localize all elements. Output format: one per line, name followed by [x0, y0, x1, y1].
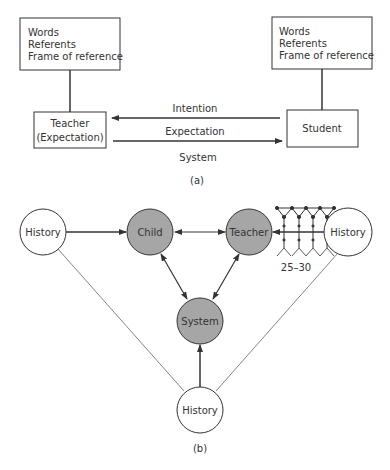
- node-teacher-label: Teacher: [229, 227, 270, 238]
- student-frame-line-3: Frame of reference: [279, 50, 374, 61]
- intention-label: Intention: [173, 103, 218, 114]
- node-child: Child: [127, 209, 173, 255]
- teacher-box-sublabel: (Expectation): [36, 132, 103, 143]
- node-teacher: Teacher: [226, 209, 272, 255]
- node-system-label: System: [181, 316, 218, 327]
- student-frame-box: Words Referents Frame of reference: [272, 17, 374, 69]
- teacher-box-label: Teacher: [50, 118, 91, 129]
- node-history-left-label: History: [25, 227, 61, 238]
- teacher-frame-line-3: Frame of reference: [28, 51, 123, 62]
- class-size-label: 25–30: [281, 262, 311, 273]
- student-box-label: Student: [302, 123, 341, 134]
- node-child-label: Child: [137, 227, 162, 238]
- teacher-frame-line-2: Referents: [28, 39, 76, 50]
- node-history-left: History: [20, 209, 66, 255]
- diagram-b: 25–30 History Child Teacher History Syst…: [20, 206, 372, 454]
- child-system-arrow: [161, 254, 187, 299]
- caption-a: (a): [190, 175, 204, 186]
- student-frame-line-2: Referents: [279, 38, 327, 49]
- student-frame-line-1: Words: [279, 26, 310, 37]
- history-right-to-bottom-line: [216, 253, 338, 391]
- history-left-to-bottom-line: [58, 249, 184, 391]
- system-label: System: [179, 152, 216, 163]
- expectation-label: Expectation: [165, 126, 224, 137]
- student-box: Student: [287, 110, 358, 147]
- node-history-right-label: History: [330, 227, 366, 238]
- teacher-box: Teacher (Expectation): [34, 112, 106, 148]
- caption-b: (b): [193, 443, 207, 454]
- node-history-bottom: History: [177, 387, 223, 433]
- node-history-bottom-label: History: [182, 405, 218, 416]
- teacher-frame-line-1: Words: [28, 27, 59, 38]
- node-history-right: History: [324, 208, 372, 256]
- diagram-canvas: Words Referents Frame of reference Words…: [0, 0, 390, 470]
- diagram-a: Words Referents Frame of reference Words…: [20, 17, 374, 186]
- teacher-frame-box: Words Referents Frame of reference: [20, 18, 123, 70]
- teacher-system-arrow: [213, 254, 239, 299]
- node-system: System: [177, 298, 223, 344]
